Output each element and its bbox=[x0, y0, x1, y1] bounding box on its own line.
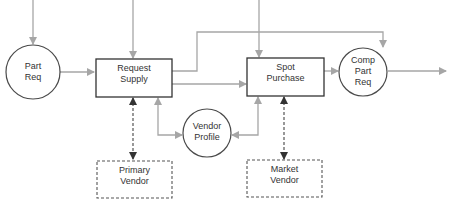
label-line: Spot bbox=[276, 62, 295, 73]
label-line: Market bbox=[271, 164, 299, 175]
node-comp-part-req-label: Comp Part Req bbox=[340, 48, 386, 94]
edge-vendor-profile-spot-purchase bbox=[232, 97, 258, 135]
label-line: Part bbox=[25, 61, 42, 72]
node-request-supply-label: Request Supply bbox=[96, 59, 172, 89]
node-part-req-label: Part Req bbox=[8, 52, 58, 92]
label-line: Vendor bbox=[120, 176, 149, 187]
label-line: Vendor bbox=[193, 121, 222, 132]
label-line: Vendor bbox=[270, 175, 299, 186]
node-spot-purchase-label: Spot Purchase bbox=[247, 58, 324, 88]
label-line: Primary bbox=[119, 165, 150, 176]
label-line: Part bbox=[355, 66, 372, 77]
label-line: Request bbox=[117, 63, 151, 74]
label-line: Profile bbox=[194, 132, 220, 143]
label-line: Req bbox=[25, 72, 42, 83]
label-line: Supply bbox=[120, 74, 148, 85]
node-primary-vendor-label: Primary Vendor bbox=[97, 161, 172, 191]
label-line: Purchase bbox=[266, 73, 304, 84]
edge-vendor-profile-request-supply bbox=[158, 98, 182, 135]
label-line: Req bbox=[355, 77, 372, 88]
label-line: Comp bbox=[351, 55, 375, 66]
node-vendor-profile-label: Vendor Profile bbox=[184, 112, 230, 152]
process-diagram bbox=[0, 0, 453, 209]
node-market-vendor-label: Market Vendor bbox=[247, 160, 322, 190]
